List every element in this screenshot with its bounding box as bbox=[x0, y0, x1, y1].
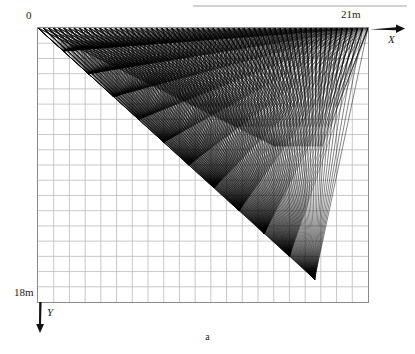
arrow-right-icon bbox=[370, 22, 406, 36]
arrow-down-icon bbox=[33, 302, 47, 334]
figure-root: 0 21m 18m X Y a bbox=[0, 0, 415, 354]
x-axis-max-label: 21m bbox=[341, 8, 361, 20]
y-axis-max-label: 18m bbox=[14, 286, 34, 298]
y-axis-label: Y bbox=[47, 306, 53, 318]
page-top-rule bbox=[193, 5, 407, 7]
origin-label: 0 bbox=[26, 9, 32, 21]
ray-paths-layer bbox=[38, 28, 368, 302]
ray-path-plot bbox=[37, 27, 369, 303]
figure-caption: a bbox=[0, 331, 415, 342]
